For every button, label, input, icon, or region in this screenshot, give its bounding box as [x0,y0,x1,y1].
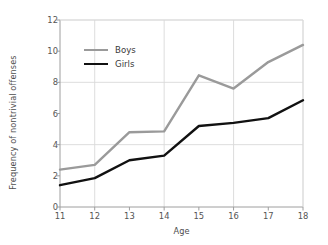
legend-line-girls-icon [84,63,108,65]
x-axis-tick-label: 12 [83,211,107,221]
x-axis-title: Age [60,226,303,236]
legend-label-girls: Girls [115,60,134,69]
plot-area [0,0,328,245]
legend-label-boys: Boys [115,46,136,55]
chart-container: Frequency of nontrivial offenses 0246810… [0,0,328,245]
x-axis-tick-label: 18 [291,211,315,221]
x-axis-tick-label: 15 [187,211,211,221]
legend-item-boys: Boys [84,44,136,56]
x-axis-tick-label: 13 [117,211,141,221]
x-axis-tick-label: 16 [222,211,246,221]
x-axis-tick-label: 14 [152,211,176,221]
legend-line-boys-icon [84,49,108,51]
series-line-girls [60,100,303,185]
x-axis-tick-label: 11 [48,211,72,221]
legend: Boys Girls [84,44,136,72]
x-axis-tick-label: 17 [256,211,280,221]
legend-item-girls: Girls [84,58,136,70]
